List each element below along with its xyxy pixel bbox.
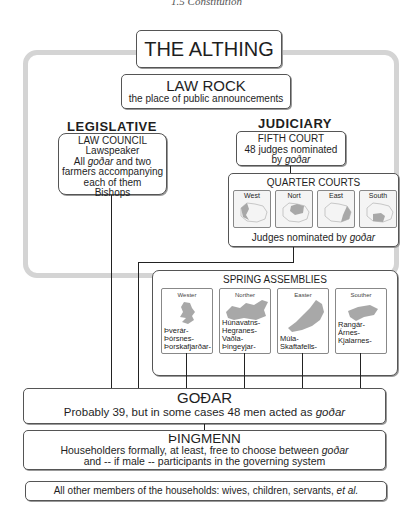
- assembly-names: Múla- Skaftafells-: [280, 335, 317, 351]
- connector-line: [302, 353, 303, 388]
- connector-line: [111, 195, 112, 388]
- region-map-icon: [176, 300, 200, 326]
- assembly-header: Wester: [162, 291, 212, 299]
- region-map-icon: [284, 298, 326, 334]
- quarter-label: East: [318, 191, 354, 200]
- quarter-label: South: [360, 191, 396, 200]
- quarter-label: West: [234, 191, 270, 200]
- law-council-line: Bishops: [59, 188, 166, 198]
- spring-assemblies-title: SPRING ASSEMBLIES: [153, 274, 397, 285]
- fifth-court-line: by goðar: [237, 155, 345, 166]
- godar-term: goðar: [350, 232, 376, 243]
- althing-title-box: THE ALTHING: [136, 30, 282, 68]
- text: by: [272, 154, 285, 165]
- legislative-heading: LEGISLATIVE: [62, 119, 162, 134]
- assembly-name: Þorskafjarðar-: [164, 343, 211, 351]
- quarter-courts-box: QUARTER COURTS West Nort East South Judg…: [228, 173, 399, 247]
- text: Judges nominated by: [252, 232, 350, 243]
- thingmenn-line: and -- if male -- participants in the go…: [24, 456, 385, 467]
- assembly-names: Rangár- Árnes- Kjalarnes-: [338, 321, 372, 345]
- althing-title: THE ALTHING: [144, 38, 274, 60]
- iceland-map-icon: [363, 200, 395, 224]
- text: All: [74, 156, 88, 167]
- godar-text: Probably 39, but in some cases 48 men ac…: [24, 405, 385, 419]
- assembly-names: Húnavatns- Hegranes- Vaðla- Þingeyjar-: [222, 319, 260, 351]
- quarter-north: Nort: [275, 190, 313, 228]
- godar-term: goðar: [316, 406, 345, 418]
- law-council-box: LAW COUNCIL Lawspeaker All goðar and two…: [58, 133, 167, 195]
- iceland-map-icon: [237, 200, 269, 224]
- quarter-east: East: [317, 190, 355, 228]
- assembly-name: Kjalarnes-: [338, 337, 372, 345]
- fifth-court-title: FIFTH COURT: [237, 134, 345, 145]
- iceland-map-icon: [279, 200, 311, 224]
- law-rock-subtitle: the place of public announcements: [122, 93, 290, 105]
- text: Probably 39, but in some cases 48 men ac…: [64, 406, 316, 418]
- assembly-easter: Easter Múla- Skaftafells-: [277, 288, 329, 354]
- fifth-court-box: FIFTH COURT 48 judges nominated by goðar: [236, 131, 346, 166]
- assembly-wester: Wester Þverár- Þórsnes- Þorskafjarðar-: [161, 288, 213, 354]
- connector-line: [360, 353, 361, 388]
- page-caption: 1.5 Constitution: [0, 0, 413, 7]
- connector-line: [186, 353, 187, 388]
- assembly-header: Souther: [336, 291, 386, 299]
- godar-term: goðar: [322, 444, 349, 456]
- connector-line: [293, 247, 294, 263]
- text: All other members of the households: wiv…: [54, 485, 337, 496]
- judiciary-heading: JUDICIARY: [250, 116, 340, 131]
- iceland-map-icon: [321, 200, 353, 224]
- quarter-label: Nort: [276, 191, 312, 200]
- assembly-norther: Norther Húnavatns- Hegranes- Vaðla- Þing…: [219, 288, 271, 354]
- connector-line: [244, 353, 245, 388]
- law-rock-title: LAW ROCK: [122, 78, 290, 93]
- law-rock-box: LAW ROCK the place of public announcemen…: [121, 74, 291, 109]
- assembly-name: Þingeyjar-: [222, 343, 260, 351]
- et-al-term: et al.: [337, 485, 359, 496]
- connector-line: [290, 166, 291, 173]
- godar-term: goðar: [285, 154, 311, 165]
- household-members-box: All other members of the households: wiv…: [25, 481, 387, 501]
- assembly-names: Þverár- Þórsnes- Þorskafjarðar-: [164, 327, 211, 351]
- godar-box: GOÐAR Probably 39, but in some cases 48 …: [23, 388, 386, 424]
- assembly-souther: Souther Rangár- Árnes- Kjalarnes-: [335, 288, 387, 354]
- godar-term: goðar: [88, 156, 114, 167]
- quarter-south: South: [359, 190, 397, 228]
- connector-line: [138, 262, 139, 388]
- godar-title: GOÐAR: [24, 390, 385, 405]
- quarter-courts-title: QUARTER COURTS: [229, 177, 398, 188]
- thingmenn-box: ÞINGMENN Householders formally, at least…: [23, 430, 386, 470]
- connector-line: [138, 262, 294, 263]
- quarter-courts-footer: Judges nominated by goðar: [229, 232, 398, 243]
- quarter-west: West: [233, 190, 271, 228]
- spring-assemblies-box: SPRING ASSEMBLIES Wester Þverár- Þórsnes…: [152, 270, 398, 376]
- text: and two: [113, 156, 151, 167]
- assembly-name: Skaftafells-: [280, 343, 317, 351]
